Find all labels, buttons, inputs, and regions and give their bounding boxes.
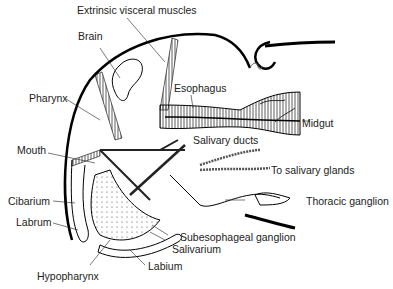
label-salivarium: Salivarium	[172, 243, 221, 255]
label-esophagus: Esophagus	[174, 82, 227, 94]
label-extrinsic-visceral-muscles: Extrinsic visceral muscles	[77, 4, 197, 16]
label-mouth: Mouth	[17, 144, 46, 156]
label-cibarium: Cibarium	[8, 195, 50, 207]
label-salivary-ducts: Salivary ducts	[193, 134, 258, 146]
label-brain: Brain	[78, 30, 103, 42]
label-thoracic-ganglion: Thoracic ganglion	[306, 195, 389, 207]
hypopharynx-shape	[91, 170, 160, 240]
label-subesophageal-ganglion: Subesophageal ganglion	[180, 231, 296, 243]
label-pharynx: Pharynx	[29, 92, 68, 104]
label-midgut: Midgut	[302, 117, 334, 129]
gut-tube	[160, 92, 300, 135]
label-labrum: Labrum	[16, 216, 52, 228]
brain-shape	[112, 59, 142, 100]
label-to-salivary-glands: To salivary glands	[271, 164, 354, 176]
label-hypopharynx: Hypopharynx	[37, 270, 99, 282]
label-labium: Labium	[148, 260, 182, 272]
